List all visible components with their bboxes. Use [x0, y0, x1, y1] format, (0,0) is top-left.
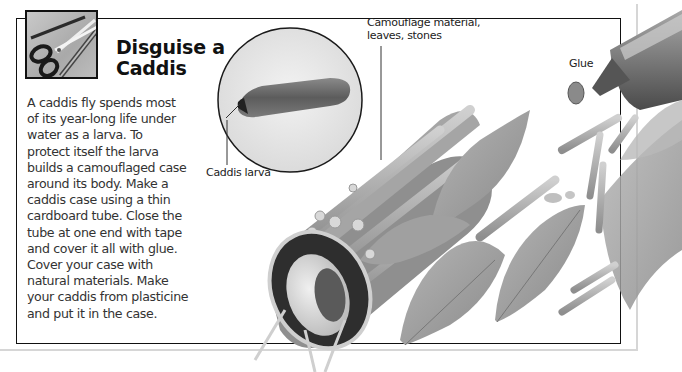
camouflage-label-line-1: Camouflage material,	[367, 16, 480, 29]
caddis-larva-photo	[218, 28, 362, 172]
caddis-larva-label: Caddis larva	[206, 166, 271, 179]
camouflage-label-line-2: leaves, stones	[367, 29, 442, 42]
caddis-illustration	[0, 0, 682, 372]
glue-label: Glue	[569, 57, 593, 70]
